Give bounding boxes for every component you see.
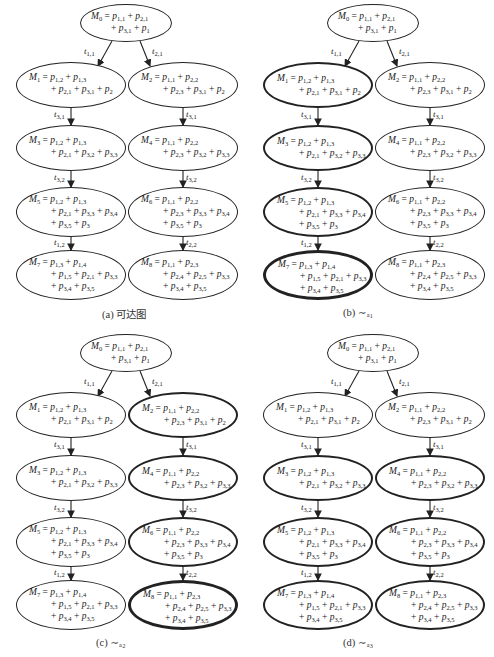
marking-node-m1: M1 = p1,2 + p1,3+ p2,1 + p3,1 + p2: [16, 62, 126, 108]
marking-node-m1: M1 = p1,2 + p1,3+ p2,1 + p3,1 + p2: [263, 62, 373, 108]
marking-m2-line2: + p2,3 + p3,1 + p2: [410, 84, 472, 98]
transition-label-e01: t1,1: [84, 46, 95, 57]
marking-node-m7: M7 = p1,3 + p1,4+ p1,5 + p2,1 + p3,3+ p3…: [263, 250, 373, 300]
marking-m3-line2: + p2,1 + p3,2 + p3,3: [51, 147, 118, 161]
transition-label-e13: t3,1: [301, 439, 312, 450]
marking-node-m5: M5 = p1,2 + p1,3+ p2,1 + p3,3 + p3,4+ p3…: [263, 517, 373, 567]
marking-m4-line2: + p2,3 + p3,2 + p3,3: [163, 147, 230, 161]
marking-node-m0: M0 = p1,1 + p2,1+ p3,1 + p1: [80, 4, 172, 42]
marking-node-m2: M2 = p1,1 + p2,2+ p2,3 + p3,1 + p2: [128, 62, 238, 108]
transition-label-e13: t3,1: [54, 109, 65, 120]
marking-node-m6: M6 = p1,1 + p2,2+ p2,3 + p3,3 + p3,4+ p3…: [128, 517, 238, 567]
marking-node-m7: M7 = p1,3 + p1,4+ p1,5 + p2,1 + p3,3+ p3…: [263, 580, 373, 630]
transition-label-e68: t2,2: [186, 237, 197, 248]
marking-node-m8: M8 = p1,1 + p2,3+ p2,4 + p2,5 + p3,3+ p3…: [128, 250, 238, 300]
marking-node-m0: M0 = p1,1 + p2,1+ p3,1 + p1: [327, 4, 419, 42]
marking-node-m4: M4 = p1,1 + p2,2+ p2,3 + p3,2 + p3,3: [128, 125, 238, 171]
transition-label-e46: t3,2: [433, 172, 444, 183]
marking-node-m6: M6 = p1,1 + p2,2+ p2,3 + p3,3 + p3,4+ p3…: [128, 187, 238, 237]
marking-m6-line3: + p3,5 + p3: [163, 218, 202, 232]
transition-label-e57: t1,2: [301, 237, 312, 248]
marking-node-m3: M3 = p1,2 + p1,3+ p2,1 + p3,2 + p3,3: [16, 125, 126, 171]
transition-label-e35: t3,2: [301, 502, 312, 513]
marking-m8-line3: + p3,4 + p3,5: [163, 281, 207, 295]
marking-node-m5: M5 = p1,2 + p1,3+ p2,1 + p3,3 + p3,4+ p3…: [16, 187, 126, 237]
marking-m2-line2: + p2,3 + p3,1 + p2: [410, 414, 472, 428]
transition-label-e68: t2,2: [433, 567, 444, 578]
panel-b-equivalence-a1: t1,1t2,1t3,1t3,1t3,2t3,2t1,2t2,2M0 = p1,…: [247, 0, 494, 328]
transition-label-e02: t2,1: [399, 376, 410, 387]
marking-node-m8: M8 = p1,1 + p2,3+ p2,4 + p2,5 + p3,3+ p3…: [375, 250, 485, 300]
transition-label-e24: t3,1: [186, 439, 197, 450]
transition-label-e57: t1,2: [54, 567, 65, 578]
transition-label-e01: t1,1: [84, 376, 95, 387]
marking-m1-line2: + p2,1 + p3,1 + p2: [51, 84, 113, 98]
transition-label-e24: t3,1: [433, 109, 444, 120]
transition-label-e35: t3,2: [54, 502, 65, 513]
marking-m5-line3: + p3,5 + p3: [299, 549, 338, 563]
marking-node-m4: M4 = p1,1 + p2,2+ p2,3 + p3,2 + p3,3: [375, 455, 485, 501]
marking-m4-line2: + p2,3 + p3,2 + p3,3: [410, 147, 477, 161]
marking-m0-line2: + p3,1 + p1: [111, 23, 150, 37]
transition-label-e01: t1,1: [331, 46, 342, 57]
transition-label-e02: t2,1: [152, 376, 163, 387]
marking-m8-line3: + p3,4 + p3,5: [165, 613, 209, 627]
transition-label-e46: t3,2: [433, 502, 444, 513]
marking-node-m3: M3 = p1,2 + p1,3+ p2,1 + p3,2 + p3,3: [16, 455, 126, 501]
transition-label-e57: t1,2: [301, 567, 312, 578]
transition-label-e46: t3,2: [186, 172, 197, 183]
marking-m4-line2: + p2,3 + p3,2 + p3,3: [164, 478, 231, 492]
panel-d-equivalence-a3: t1,1t2,1t3,1t3,1t3,2t3,2t1,2t2,2M0 = p1,…: [247, 330, 494, 657]
edge-arrow-e02: [140, 41, 150, 66]
transition-label-e24: t3,1: [433, 439, 444, 450]
marking-m1-line2: + p2,1 + p3,1 + p2: [298, 414, 360, 428]
edge-arrow-e02: [387, 41, 397, 66]
marking-m3-line2: + p2,1 + p3,2 + p3,3: [299, 478, 366, 492]
marking-m5-line3: + p3,5 + p3: [51, 548, 90, 562]
edge-arrow-e01: [345, 41, 359, 66]
marking-node-m5: M5 = p1,2 + p1,3+ p2,1 + p3,3 + p3,4+ p3…: [263, 187, 373, 237]
marking-node-m4: M4 = p1,1 + p2,2+ p2,3 + p3,2 + p3,3: [128, 455, 238, 501]
marking-m2-line2: + p2,3 + p3,1 + p2: [163, 84, 225, 98]
marking-m8-line3: + p3,4 + p3,5: [411, 612, 455, 626]
panel-caption-a: (a) 可达图: [102, 306, 146, 321]
marking-m5-line3: + p3,5 + p3: [299, 219, 338, 233]
marking-node-m2: M2 = p1,1 + p2,2+ p2,3 + p3,1 + p2: [128, 392, 238, 438]
panel-caption-d: (d) ∼ₐ₃: [343, 636, 373, 648]
transition-label-e68: t2,2: [186, 567, 197, 578]
marking-m1-line2: + p2,1 + p3,1 + p2: [299, 85, 361, 99]
marking-node-m0: M0 = p1,1 + p2,1+ p3,1 + p1: [80, 334, 172, 372]
transition-label-e35: t3,2: [54, 172, 65, 183]
marking-node-m7: M7 = p1,3 + p1,4+ p1,5 + p2,1 + p3,3+ p3…: [16, 250, 126, 300]
marking-m0-line2: + p3,1 + p1: [358, 353, 397, 367]
marking-node-m3: M3 = p1,2 + p1,3+ p2,1 + p3,2 + p3,3: [263, 455, 373, 501]
transition-label-e68: t2,2: [433, 237, 444, 248]
transition-label-e13: t3,1: [301, 109, 312, 120]
marking-node-m7: M7 = p1,3 + p1,4+ p1,5 + p2,1 + p3,3+ p3…: [16, 580, 126, 630]
panel-c-equivalence-a2: t1,1t2,1t3,1t3,1t3,2t3,2t1,2t2,2M0 = p1,…: [0, 330, 247, 657]
marking-node-m3: M3 = p1,2 + p1,3+ p2,1 + p3,2 + p3,3: [263, 125, 373, 171]
panel-caption-c: (c) ∼ₐ₂: [96, 636, 126, 648]
marking-m7-line3: + p3,4 + p3,5: [51, 281, 95, 295]
marking-m7-line3: + p3,4 + p3,5: [299, 612, 343, 626]
marking-m7-line3: + p3,4 + p3,5: [51, 611, 95, 625]
marking-m5-line3: + p3,5 + p3: [51, 218, 90, 232]
marking-node-m1: M1 = p1,2 + p1,3+ p2,1 + p3,1 + p2: [263, 392, 373, 438]
edge-arrow-e01: [98, 371, 112, 396]
edge-arrow-e01: [98, 41, 112, 66]
marking-m3-line2: + p2,1 + p3,2 + p3,3: [51, 477, 118, 491]
transition-label-e02: t2,1: [152, 46, 163, 57]
marking-node-m2: M2 = p1,1 + p2,2+ p2,3 + p3,1 + p2: [375, 392, 485, 438]
marking-node-m8: M8 = p1,1 + p2,3+ p2,4 + p2,5 + p3,3+ p3…: [375, 580, 485, 630]
panel-caption-b: (b) ∼ₐ₁: [343, 306, 373, 318]
transition-label-e46: t3,2: [186, 502, 197, 513]
edge-arrow-e01: [345, 371, 359, 396]
marking-m3-line2: + p2,1 + p3,2 + p3,3: [299, 148, 366, 162]
marking-node-m8: M8 = p1,1 + p2,3+ p2,4 + p2,5 + p3,3+ p3…: [128, 580, 238, 630]
marking-m4-line2: + p2,3 + p3,2 + p3,3: [411, 478, 478, 492]
marking-m6-line3: + p3,5 + p3: [164, 549, 203, 563]
marking-node-m0: M0 = p1,1 + p2,1+ p3,1 + p1: [327, 334, 419, 372]
marking-m0-line2: + p3,1 + p1: [358, 23, 397, 37]
marking-node-m6: M6 = p1,1 + p2,2+ p2,3 + p3,3 + p3,4+ p3…: [375, 187, 485, 237]
edge-arrow-e02: [140, 371, 150, 396]
